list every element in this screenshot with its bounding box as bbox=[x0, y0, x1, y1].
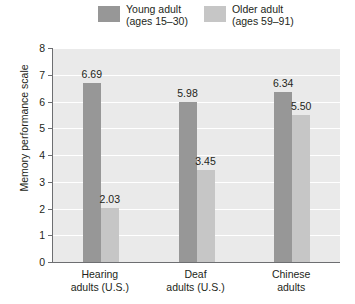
legend-swatch-older-adult bbox=[204, 6, 226, 22]
legend-item-young-adult: Young adult (ages 15–30) bbox=[98, 4, 188, 27]
x-axis-category-label-line: adults (U.S.) bbox=[71, 281, 129, 294]
bar bbox=[197, 170, 215, 262]
legend-swatch-young-adult bbox=[98, 6, 120, 22]
plot-area: 6.692.035.983.456.345.50 bbox=[52, 48, 340, 263]
y-axis-tick-label: 7 bbox=[15, 69, 45, 81]
y-axis-tick-label: 2 bbox=[15, 203, 45, 215]
chart-legend: Young adult (ages 15–30) Older adult (ag… bbox=[98, 4, 294, 27]
legend-label-older-adult-ages: (ages 59–91) bbox=[232, 16, 294, 28]
bar bbox=[274, 92, 292, 262]
x-axis-category-label: Chineseadults bbox=[272, 268, 311, 293]
legend-label-older-adult: Older adult (ages 59–91) bbox=[232, 4, 294, 27]
bar-value-label: 3.45 bbox=[195, 155, 215, 167]
x-axis-category-label-line: adults bbox=[272, 281, 311, 294]
legend-label-young-adult: Young adult (ages 15–30) bbox=[126, 4, 188, 27]
y-axis-tick-mark bbox=[48, 48, 53, 49]
y-axis-tick-label: 4 bbox=[15, 149, 45, 161]
bar-value-label: 6.34 bbox=[273, 77, 293, 89]
x-axis-category-label-line: Chinese bbox=[272, 268, 311, 281]
bar bbox=[101, 208, 119, 262]
bar-value-label: 6.69 bbox=[82, 68, 102, 80]
y-axis-tick-mark bbox=[48, 209, 53, 210]
y-axis-tick-label: 8 bbox=[15, 42, 45, 54]
bar-value-label: 5.50 bbox=[291, 100, 311, 112]
x-axis-category-label-line: adults (U.S.) bbox=[166, 281, 224, 294]
legend-label-young-adult-ages: (ages 15–30) bbox=[126, 16, 188, 28]
y-axis-tick-mark bbox=[48, 102, 53, 103]
y-axis-tick-label: 0 bbox=[15, 256, 45, 268]
y-axis-tick-mark bbox=[48, 128, 53, 129]
y-axis-tick-label: 6 bbox=[15, 96, 45, 108]
y-axis-tick-mark bbox=[48, 262, 53, 263]
y-axis-tick-label: 3 bbox=[15, 176, 45, 188]
y-axis-tick-label: 1 bbox=[15, 229, 45, 241]
bar bbox=[292, 115, 310, 262]
x-axis-category-label-line: Deaf bbox=[166, 268, 224, 281]
bar bbox=[179, 102, 197, 262]
legend-label-young-adult-name: Young adult bbox=[126, 4, 188, 16]
x-axis-category-label: Hearingadults (U.S.) bbox=[71, 268, 129, 293]
gridline bbox=[53, 48, 340, 49]
y-axis-tick-mark bbox=[48, 155, 53, 156]
y-axis-tick-label: 5 bbox=[15, 122, 45, 134]
bar-value-label: 2.03 bbox=[100, 193, 120, 205]
y-axis-tick-mark bbox=[48, 75, 53, 76]
y-axis-tick-mark bbox=[48, 182, 53, 183]
legend-label-older-adult-name: Older adult bbox=[232, 4, 294, 16]
bar bbox=[83, 83, 101, 262]
legend-item-older-adult: Older adult (ages 59–91) bbox=[204, 4, 294, 27]
x-axis-category-label-line: Hearing bbox=[71, 268, 129, 281]
x-axis-category-label: Deafadults (U.S.) bbox=[166, 268, 224, 293]
y-axis-tick-mark bbox=[48, 235, 53, 236]
bar-chart: Young adult (ages 15–30) Older adult (ag… bbox=[0, 0, 355, 304]
bar-value-label: 5.98 bbox=[177, 87, 197, 99]
